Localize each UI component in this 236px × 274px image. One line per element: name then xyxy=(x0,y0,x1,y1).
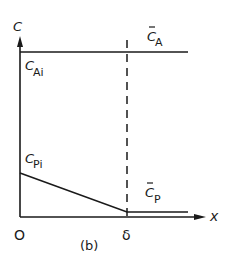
y-axis-arrow-icon xyxy=(17,36,23,47)
svg-text:Pi: Pi xyxy=(33,158,42,171)
delta-label: δ xyxy=(122,227,131,243)
svg-text:A: A xyxy=(155,36,163,49)
c-a-bar-label: C A xyxy=(147,27,163,49)
y-axis-label: C xyxy=(13,19,23,34)
c-ai-label: C Ai xyxy=(25,58,44,79)
x-axis-arrow-icon xyxy=(194,214,206,220)
svg-text:P: P xyxy=(154,193,161,206)
c-pi-label: C Pi xyxy=(25,151,42,171)
origin-label: O xyxy=(14,227,25,243)
x-axis-label: x xyxy=(209,208,219,224)
c-p-bar-label: C P xyxy=(145,183,161,206)
c-p-profile-line xyxy=(20,173,188,212)
svg-text:Ai: Ai xyxy=(33,66,44,79)
concentration-profile-diagram: C x O δ (b) C A C Ai C Pi C P xyxy=(0,0,236,274)
panel-label: (b) xyxy=(80,238,98,253)
